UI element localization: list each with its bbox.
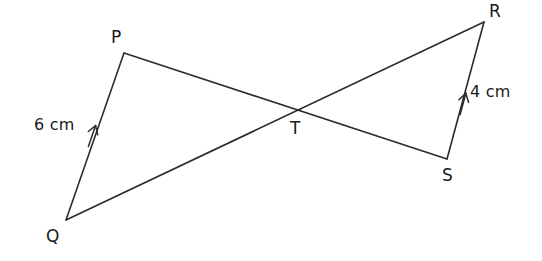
- vertex-label-q: Q: [46, 228, 60, 245]
- segment-qr: [66, 22, 484, 220]
- vertex-label-t: T: [290, 120, 301, 137]
- segment-qp: [66, 53, 124, 220]
- length-label-qp: 6 cm: [34, 117, 74, 133]
- vertex-label-p: P: [111, 29, 121, 46]
- vertex-label-s: S: [442, 167, 453, 184]
- geometry-figure: P Q R S T 6 cm 4 cm: [0, 0, 542, 261]
- vertex-label-r: R: [489, 3, 501, 20]
- segment-ps: [124, 53, 447, 159]
- geometry-canvas: [0, 0, 542, 261]
- arrow-marker-sr-icon: [455, 92, 470, 116]
- length-label-sr: 4 cm: [470, 84, 510, 100]
